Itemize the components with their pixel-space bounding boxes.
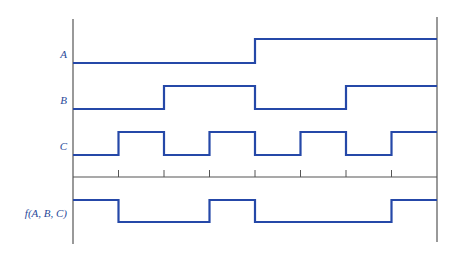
signal-label-B: B [60, 94, 67, 106]
timing-diagram: ABCf(A, B, C) [0, 0, 461, 256]
waveforms [73, 39, 437, 222]
signal-label-f: f(A, B, C) [25, 207, 67, 220]
waveform-f [73, 200, 437, 222]
signal-label-C: C [60, 140, 68, 152]
signal-label-A: A [59, 48, 67, 60]
waveform-B [73, 86, 437, 109]
time-ticks [119, 170, 392, 177]
waveform-C [73, 132, 437, 155]
waveform-A [73, 39, 437, 63]
signal-labels: ABCf(A, B, C) [25, 48, 68, 220]
